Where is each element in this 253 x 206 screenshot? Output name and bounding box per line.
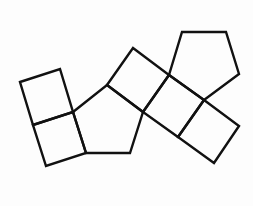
pentagon-left	[73, 85, 143, 153]
polyhedron-net	[0, 0, 253, 206]
square-top-left	[20, 69, 73, 125]
square-bottom-left	[33, 112, 86, 166]
square-center	[143, 75, 204, 137]
pentagon-right	[169, 32, 239, 100]
square-bottom-right	[178, 100, 239, 163]
diagram-canvas	[0, 0, 253, 206]
square-upper-middle	[107, 48, 169, 112]
